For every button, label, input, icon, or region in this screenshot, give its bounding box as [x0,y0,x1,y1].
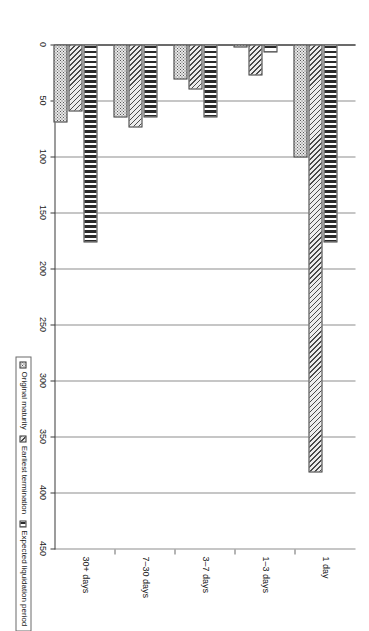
axis-tick [50,212,55,213]
axis-tick-label: 50 [37,95,47,105]
category-label: 30+ days [80,556,90,593]
axis-tick-label: 400 [37,484,47,499]
legend-swatch-icon [20,361,27,368]
bar [53,44,67,122]
bar [143,44,157,117]
axis-tick-label: 350 [37,428,47,443]
axis-tick [50,324,55,325]
category-separator-tick [114,549,115,554]
axis-tick [50,268,55,269]
category-separator-tick [294,549,295,554]
bar [308,44,322,472]
bar [128,44,142,127]
axis-tick [50,380,55,381]
category-label: 1 day [320,556,330,578]
legend-swatch-icon [20,520,27,527]
axis-tick [50,156,55,157]
axis-tick-label: 300 [37,372,47,387]
axis-tick-label: 200 [37,260,47,275]
bar [68,44,82,111]
bar [263,44,277,52]
category-separator-tick [174,549,175,554]
legend-entry-expected-liquidation-period: Expected liquidation period [18,520,28,626]
bar [248,44,262,75]
chart-legend: Original maturity Earliest termination E… [15,356,31,631]
bar [173,44,187,79]
category-label: 3–7 days [200,556,210,593]
legend-entry-earliest-termination: Earliest termination [18,435,28,513]
axis-tick-label: 100 [37,148,47,163]
axis-tick [50,548,55,549]
bar [293,44,307,157]
bar [203,44,217,117]
bar [188,44,202,89]
axis-tick [50,436,55,437]
category-label: 1–3 days [260,556,270,593]
gridline [55,548,355,549]
category-separator-tick [234,549,235,554]
axis-tick-label: 450 [37,540,47,555]
category-label: 7–30 days [140,556,150,598]
legend-label: Expected liquidation period [18,530,28,626]
axis-tick-label: 250 [37,316,47,331]
bar [83,44,97,242]
axis-tick-label: 0 [37,41,47,46]
axis-tick-label: 150 [37,204,47,219]
gridline [55,492,355,493]
legend-swatch-icon [20,435,27,442]
legend-entry-original-maturity: Original maturity [18,361,28,429]
legend-label: Earliest termination [18,445,28,513]
bar [233,44,247,47]
legend-label: Original maturity [18,371,28,429]
axis-tick [50,492,55,493]
bar [323,44,337,242]
bar [113,44,127,117]
